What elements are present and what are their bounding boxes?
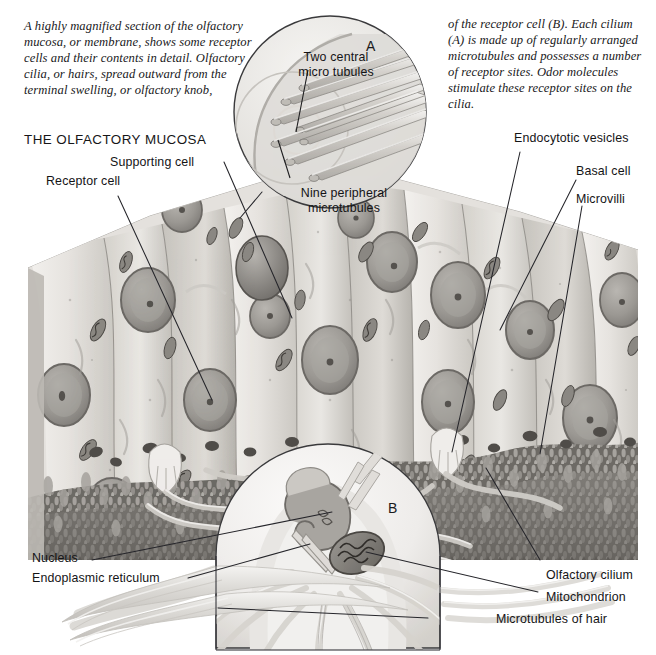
- label-endoplasmic-reticulum: Endoplasmic reticulum: [32, 571, 160, 585]
- label-endocytotic-vesicles: Endocytotic vesicles: [514, 131, 629, 145]
- figure-canvas: A highly magnified section of the olfact…: [0, 0, 656, 655]
- label-two-central-microtubules-line2: micro tubules: [277, 65, 395, 79]
- inset-a-cilium-microtubules: [234, 16, 452, 208]
- label-mitochondrion: Mitochondrion: [546, 590, 626, 604]
- inset-marker-b: B: [388, 500, 397, 516]
- label-nine-peripheral-microtubules-line1: Nine peripheral: [278, 186, 410, 200]
- page-title: THE OLFACTORY MUCOSA: [24, 132, 206, 147]
- label-receptor-cell: Receptor cell: [46, 174, 120, 188]
- block-left-edge: [28, 268, 44, 560]
- label-nucleus: Nucleus: [32, 551, 78, 565]
- label-basal-cell: Basal cell: [576, 164, 631, 178]
- label-two-central-microtubules-line1: Two central: [277, 50, 395, 64]
- label-olfactory-cilium: Olfactory cilium: [546, 568, 633, 582]
- label-microvilli: Microvilli: [576, 192, 625, 206]
- label-supporting-cell: Supporting cell: [110, 155, 194, 169]
- label-microtubules-of-hair: Microtubules of hair: [496, 612, 607, 626]
- label-nine-peripheral-microtubules-line2: microtubules: [278, 201, 410, 215]
- caption-left: A highly magnified section of the olfact…: [24, 18, 260, 98]
- caption-right: of the receptor cell (B). Each cilium (A…: [448, 16, 652, 113]
